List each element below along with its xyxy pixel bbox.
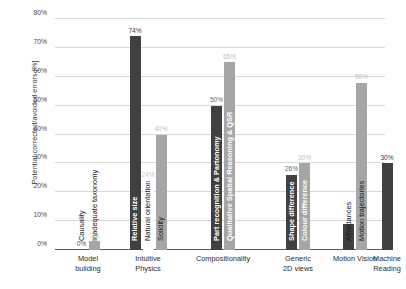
y-tick-label: 60%: [7, 66, 47, 73]
bar-value-label: 65%: [223, 54, 236, 61]
bar[interactable]: 50%Part recognition & Partonomy: [211, 19, 222, 250]
bar-series-label: Motion trajectories: [358, 180, 365, 240]
y-tick-label: 20%: [7, 182, 47, 189]
x-category-label-line: Compositionality: [191, 254, 255, 264]
y-tick-label: 0%: [7, 240, 47, 247]
bar[interactable]: 0%Causality: [76, 19, 87, 250]
bar-series-label: Part recognition & Partonomy: [213, 136, 220, 241]
x-category-label-line: Machine: [355, 254, 406, 264]
bar-rect: [382, 163, 393, 250]
bar-value-label: 58%: [355, 74, 368, 81]
y-tick-label: 10%: [7, 211, 47, 218]
bar-series-label: Colour difference: [301, 179, 308, 240]
x-category-label-line: Model: [56, 254, 120, 264]
bar-series-label: Affordances: [345, 201, 352, 240]
x-category-label-line: Intuitive: [116, 254, 180, 264]
x-category-label: MachineReading: [355, 254, 406, 273]
y-tick-label: 50%: [7, 95, 47, 102]
bar[interactable]: 9%Affordances: [343, 19, 354, 250]
bar-series-label: Inadequate taxonomy: [91, 170, 98, 241]
bar[interactable]: 26%Shape difference: [286, 19, 297, 250]
bar-value-label: 74%: [128, 28, 141, 35]
bar-rect: [89, 241, 100, 250]
bar-value-label: 50%: [210, 97, 223, 104]
bar-value-label: 26%: [285, 166, 298, 173]
x-category-label-line: Generic: [266, 254, 330, 264]
bar-series-label: Relative size: [131, 196, 138, 240]
x-category-label-line: Reading: [355, 264, 406, 274]
bar[interactable]: 30%Colour difference: [299, 19, 310, 250]
bar[interactable]: 65%Qualitative Spatial Reasoning & QSR: [224, 19, 235, 250]
bar-series-label: Shape difference: [288, 181, 295, 241]
bar[interactable]: 40%Solidity: [156, 19, 167, 250]
y-tick-label: 30%: [7, 153, 47, 160]
y-tick-label: 80%: [7, 9, 47, 16]
x-category-label: Compositionality: [191, 254, 255, 264]
bar[interactable]: 30%: [382, 19, 393, 250]
bar-value-label: 30%: [298, 155, 311, 162]
plot-area: 0%10%20%30%40%50%60%70%80%0%Causality3%I…: [55, 19, 385, 250]
bar[interactable]: 3%Inadequate taxonomy: [89, 19, 100, 250]
x-category-label-line: Physics: [116, 264, 180, 274]
bar-series-label: Causality: [78, 210, 85, 240]
bar[interactable]: 24%Natural orientation: [143, 19, 154, 250]
bar-value-label: 24%: [141, 172, 154, 179]
x-category-label-line: building: [56, 264, 120, 274]
bar-value-label: 0%: [77, 241, 87, 248]
bar-series-label: Qualitative Spatial Reasoning & QSR: [226, 111, 233, 240]
y-tick-label: 40%: [7, 124, 47, 131]
y-axis-title: Potential corrected/avoided errors [%]: [30, 23, 39, 223]
x-category-label: Generic2D views: [266, 254, 330, 273]
y-tick-label: 70%: [7, 37, 47, 44]
bar-value-label: 30%: [380, 155, 393, 162]
bar-series-label: Solidity: [157, 217, 164, 241]
x-category-label: Modelbuilding: [56, 254, 120, 273]
bar[interactable]: 58%Motion trajectories: [356, 19, 367, 250]
bar-value-label: 40%: [154, 126, 167, 133]
x-category-label: IntuitivePhysics: [116, 254, 180, 273]
bar[interactable]: 74%Relative size: [130, 19, 141, 250]
bar-series-label: Natural orientation: [144, 180, 151, 240]
x-category-label-line: 2D views: [266, 264, 330, 274]
